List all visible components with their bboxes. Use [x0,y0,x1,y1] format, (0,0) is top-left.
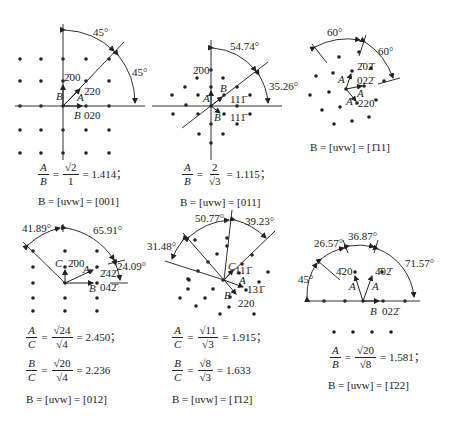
svg-text:C: C [228,260,236,272]
svg-text:B: B [224,289,231,301]
svg-text:2̄02̄: 2̄02̄ [357,60,376,72]
panel-111: 60° 60° 2̄02̄ 022̄ 220 A A A [308,26,400,126]
svg-text:A: A [371,280,379,292]
svg-text:4̄20: 4̄20 [336,265,353,277]
svg-text:B: B [370,305,377,317]
svg-text:A: A [337,73,345,85]
svg-text:45°: 45° [132,66,147,78]
formula-001: AB = √21 = 1.414； [36,162,127,187]
svg-text:042̄: 042̄ [100,281,119,293]
svg-text:A: A [345,95,353,107]
formula-112-b: BC = √8√3 = 1.633 [170,358,251,383]
svg-text:022̄: 022̄ [382,305,401,317]
zone-axis-112: B = [uvw] = [1̄12] [172,394,252,405]
svg-text:B: B [89,282,96,294]
svg-text:111̄: 111̄ [230,93,248,105]
svg-text:A: A [348,280,356,292]
svg-text:2̄00: 2̄00 [64,71,81,83]
svg-text:B: B [220,82,227,94]
svg-text:39.23°: 39.23° [245,215,274,227]
svg-text:C: C [55,257,63,269]
svg-text:4̄02̄: 4̄02̄ [375,265,394,277]
svg-text:71.57°: 71.57° [405,257,434,269]
svg-text:A: A [238,274,246,286]
svg-text:65.91°: 65.91° [93,224,122,236]
svg-text:60°: 60° [327,26,342,38]
svg-text:A: A [82,263,90,275]
panel-122: 26.57° 36.87° 71.57° 45° 4̄20 4̄02̄ 022̄… [298,230,434,334]
svg-text:35.26°: 35.26° [269,80,298,92]
svg-text:54.74°: 54.74° [230,40,259,52]
svg-text:2̄42̄: 2̄42̄ [100,267,119,279]
svg-text:022̄: 022̄ [357,74,376,86]
svg-text:41.89°: 41.89° [22,222,51,234]
svg-text:60°: 60° [378,45,393,57]
panel-112: 50.77° 39.23° 31.48° 111̄ 131̄ 220 C A B [147,210,275,316]
svg-text:24.09°: 24.09° [117,260,146,272]
svg-text:A: A [356,87,364,99]
formula-011: AB = 2√3 = 1.115； [180,162,271,187]
svg-text:020: 020 [84,109,101,121]
panel-012: 41.89° 65.91° 24.09° 2̄00 2̄42̄ 042̄ C A… [22,222,146,313]
panel-011: 54.74° 35.26° 2̄00 111̄ 111̄ A B B [152,40,298,160]
svg-text:2̄20: 2̄20 [84,85,101,97]
svg-text:A: A [76,91,84,103]
formula-122: AB = √20√8 = 1.581； [328,345,425,370]
svg-text:50.77°: 50.77° [195,212,224,224]
formula-012-b: BC = √20√4 = 2.236 [24,358,110,383]
svg-text:45°: 45° [298,273,313,285]
svg-text:31.48°: 31.48° [147,240,176,252]
zone-axis-011: B = [uvw] = [011] [180,197,260,208]
svg-text:45°: 45° [93,26,108,38]
svg-text:220: 220 [238,297,255,309]
svg-text:A: A [202,92,210,104]
zone-axis-122: B = [uvw] = [1̄22] [328,380,409,391]
svg-text:B: B [74,109,81,121]
panel-001: 45° 45° 2̄00 2̄20 020 A B B [15,24,147,160]
formula-012-a: AC = √24√4 = 2.450； [24,325,121,350]
zone-axis-012: B = [uvw] = [012] [26,394,107,405]
svg-text:2̄00: 2̄00 [193,64,210,76]
svg-text:B: B [214,111,221,123]
svg-text:36.87°: 36.87° [348,230,377,242]
svg-text:131̄: 131̄ [247,283,266,295]
svg-text:B: B [56,90,63,102]
zone-axis-111: B = [uvw] = [1̄11] [310,142,390,153]
svg-text:26.57°: 26.57° [314,237,343,249]
zone-axis-001: B = [uvw] = [001] [38,196,119,207]
formula-112-a: AC = √11√3 = 1.915； [170,325,267,350]
svg-text:111̄: 111̄ [230,111,248,123]
